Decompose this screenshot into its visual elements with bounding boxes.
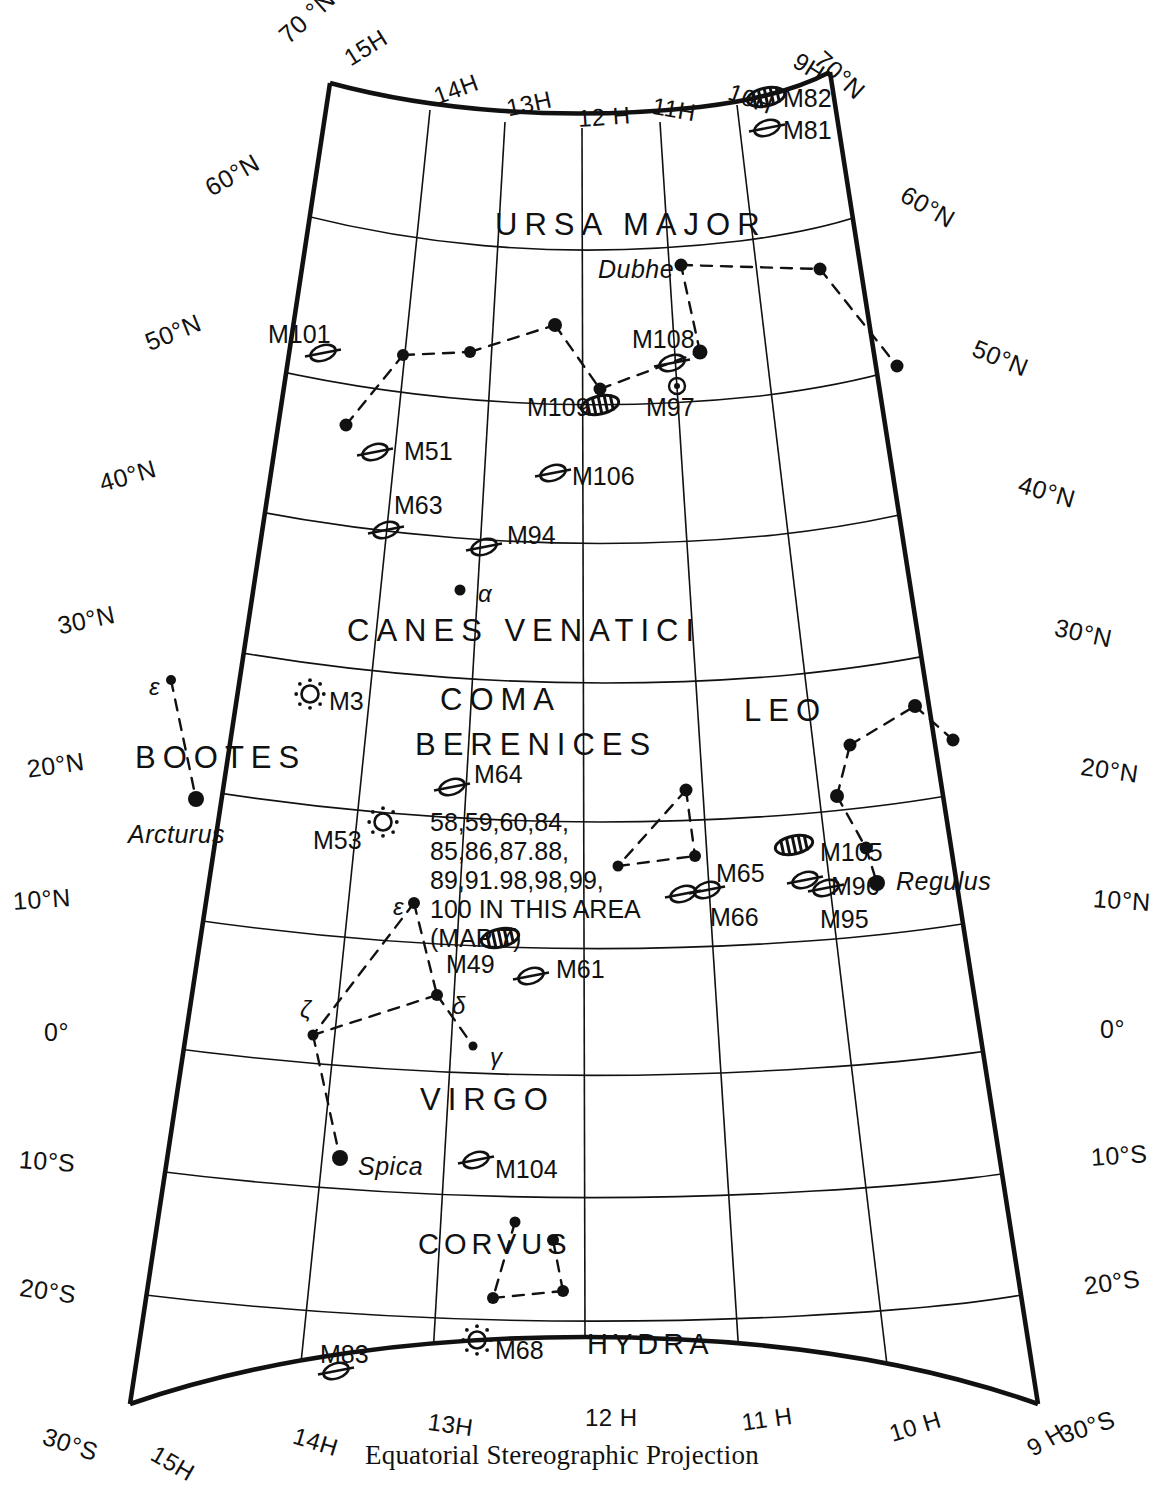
globular-spike xyxy=(298,702,302,706)
star-dot xyxy=(830,789,844,803)
star-dot xyxy=(689,850,701,862)
globular-spike xyxy=(395,820,399,824)
chart-caption: Equatorial Stereographic Projection xyxy=(365,1440,759,1471)
dso-symbol-galaxy-oval xyxy=(513,965,549,987)
greek-star-label: ε xyxy=(149,673,160,701)
globular-ring xyxy=(375,814,392,831)
messier-label-m82: M82 xyxy=(783,84,832,113)
star-label-regulus: Regulus xyxy=(896,867,991,896)
planetary-core xyxy=(674,383,680,389)
star-dot xyxy=(891,360,904,373)
messier-label-m51: M51 xyxy=(404,437,453,466)
dso-symbol-galaxy-oval xyxy=(458,1149,494,1171)
star-dot xyxy=(510,1217,521,1228)
messier-label-m66: M66 xyxy=(710,903,759,932)
globular-spike xyxy=(381,806,385,810)
dso-symbol-globular xyxy=(294,678,325,709)
virgo-cluster-note-line: 85,86,87.88, xyxy=(430,837,641,866)
messier-label-m106: M106 xyxy=(572,462,635,491)
constellation-label-bootes: BOOTES xyxy=(135,740,306,776)
greek-star-label: γ xyxy=(490,1043,502,1071)
globular-spike xyxy=(308,678,312,682)
star-dot xyxy=(464,346,476,358)
star-label-dubhe: Dubhe xyxy=(598,255,674,284)
messier-label-m61: M61 xyxy=(556,955,605,984)
messier-label-m101: M101 xyxy=(268,320,331,349)
constellation-label-ursa-major: URSA MAJOR xyxy=(495,207,767,243)
star-dot xyxy=(557,1285,569,1297)
star-dot xyxy=(340,419,353,432)
virgo-cluster-note-line: 100 IN THIS AREA xyxy=(430,895,641,924)
globular-spike xyxy=(391,830,395,834)
messier-label-m96: M96 xyxy=(831,872,880,901)
star-dot xyxy=(397,349,409,361)
dso-symbol-globular xyxy=(367,806,398,837)
messier-label-m95: M95 xyxy=(820,905,869,934)
globular-spike xyxy=(294,692,298,696)
dso-symbol-galaxy-oval xyxy=(535,462,571,484)
globular-spike xyxy=(318,702,322,706)
dec-tick-right-10N: 10°N xyxy=(1092,884,1152,917)
galaxy-hatch xyxy=(598,397,601,413)
dec-tick-left-0: 0° xyxy=(44,1018,69,1047)
globular-spike xyxy=(489,1338,493,1342)
globular-spike xyxy=(367,820,371,824)
constellation-label-berenices: BERENICES xyxy=(415,727,657,763)
messier-label-m81: M81 xyxy=(783,116,832,145)
dec-tick-right-10S: 10°S xyxy=(1090,1139,1148,1172)
greek-star-label: δ xyxy=(452,992,465,1020)
messier-label-m97: M97 xyxy=(646,393,695,422)
star-dot xyxy=(487,1292,499,1304)
star-dot xyxy=(844,739,857,752)
galaxy-hatch xyxy=(786,838,789,854)
galaxy-hatch xyxy=(604,396,607,412)
constellation-label-hydra: HYDRA xyxy=(587,1328,714,1361)
star-dot xyxy=(947,734,960,747)
globular-spike xyxy=(322,692,326,696)
star-dot xyxy=(594,383,607,396)
constellation-label-virgo: VIRGO xyxy=(420,1082,555,1118)
virgo-cluster-note-line: (MAP 7) xyxy=(430,924,641,953)
star-dot-named xyxy=(675,259,688,272)
dec-tick-left-10S: 10°S xyxy=(18,1145,76,1178)
dso-symbol-galaxy-oval xyxy=(368,519,404,541)
globular-spike xyxy=(298,682,302,686)
constellation-label-canes-venatici: CANES VENATICI xyxy=(347,613,701,649)
dso-symbol-galaxy-oval xyxy=(654,352,690,374)
star-dot-greek xyxy=(431,989,443,1001)
messier-label-m68: M68 xyxy=(495,1336,544,1365)
dec-tick-left-10N: 10°N xyxy=(12,883,72,916)
greek-star-label: ζ xyxy=(300,996,311,1024)
constellation-label-leo: LEO xyxy=(744,693,827,729)
dso-symbol-galaxy-bar xyxy=(774,832,815,858)
star-label-spica: Spica xyxy=(358,1152,423,1181)
globular-spike xyxy=(475,1352,479,1356)
messier-label-m65: M65 xyxy=(716,859,765,888)
messier-label-m94: M94 xyxy=(507,521,556,550)
ra-tick-bottom-12H: 12 H xyxy=(585,1404,638,1432)
dso-symbol-galaxy-oval xyxy=(749,117,785,139)
star-label-arcturus: Arcturus xyxy=(128,820,225,849)
star-dot-greek xyxy=(455,585,466,596)
globular-spike xyxy=(371,830,375,834)
star-dot-greek xyxy=(469,1042,478,1051)
messier-label-m64: M64 xyxy=(474,760,523,789)
globular-spike xyxy=(391,810,395,814)
messier-label-m109: M109 xyxy=(527,393,590,422)
star-dot xyxy=(814,263,827,276)
star-dot xyxy=(680,784,693,797)
galaxy-hatch xyxy=(798,836,801,852)
dso-symbol-galaxy-oval xyxy=(787,869,823,891)
messier-label-m108: M108 xyxy=(632,325,695,354)
star-dot xyxy=(693,345,708,360)
greek-star-label: ε xyxy=(393,893,404,921)
virgo-cluster-note-line: 89,91.98,98,99, xyxy=(430,866,641,895)
messier-label-m53: M53 xyxy=(313,826,362,855)
virgo-cluster-note: 58,59,60,84,85,86,87.88,89,91.98,98,99,1… xyxy=(430,808,641,953)
messier-label-m49: M49 xyxy=(446,950,495,979)
dso-symbol-galaxy-oval xyxy=(357,441,393,463)
star-dot xyxy=(908,699,922,713)
dso-symbol-galaxy-oval xyxy=(434,776,470,798)
globular-ring xyxy=(302,686,319,703)
star-chart: DubheArcturusRegulusSpicaαεεζδγM82M81M10… xyxy=(0,0,1171,1486)
